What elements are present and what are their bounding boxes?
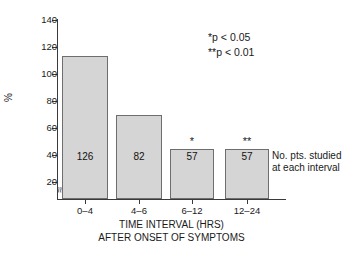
significance-marker-6-12: * (170, 136, 214, 147)
x-tick-label-4-6: 4–6 (114, 205, 164, 216)
x-tick-0-4 (85, 200, 86, 204)
bar-value-6-12: 57 (170, 152, 214, 162)
pvalue-line-001: **p < 0.01 (208, 45, 254, 60)
y-tick-label-20: 20 (29, 177, 57, 187)
pvalue-text-005: p < 0.05 (212, 31, 250, 43)
pvalue-line-005: *p < 0.05 (208, 30, 254, 45)
bar-value-0-4: 126 (62, 152, 108, 162)
y-tick-120: 120 (0, 47, 57, 48)
bar-value-12-24: 57 (225, 152, 269, 162)
num-patients-line2: at each interval (272, 162, 341, 174)
bar-0-4[interactable] (62, 56, 108, 199)
bar-chart-figure: 140 120 100 80 60 40 20 ≈ % 126 82 57 * … (0, 0, 351, 257)
y-tick-label-80: 80 (29, 96, 57, 106)
y-tick-label-60: 60 (29, 123, 57, 133)
y-tick-label-140: 140 (29, 15, 57, 25)
num-patients-annotation: No. pts. studied at each interval (272, 150, 341, 174)
significance-marker-12-24: ** (225, 136, 269, 147)
x-axis-line (57, 199, 286, 200)
x-tick-label-6-12: 6–12 (167, 205, 217, 216)
y-axis-line (57, 19, 58, 200)
y-tick-100: 100 (0, 74, 57, 75)
x-tick-12-24 (247, 200, 248, 204)
x-axis-title: TIME INTERVAL (HRS) AFTER ONSET OF SYMPT… (57, 219, 286, 244)
y-tick-40: 40 (0, 155, 57, 156)
x-axis-title-line1: TIME INTERVAL (HRS) (57, 219, 286, 232)
y-tick-label-40: 40 (29, 150, 57, 160)
x-tick-4-6 (139, 200, 140, 204)
y-tick-20: 20 (0, 182, 57, 183)
x-axis-title-line2: AFTER ONSET OF SYMPTOMS (57, 232, 286, 245)
pvalue-annotation: *p < 0.05 **p < 0.01 (208, 30, 254, 60)
pvalue-text-001: p < 0.01 (216, 46, 254, 58)
asterisk-double-icon: ** (208, 46, 216, 58)
y-tick-140: 140 (0, 20, 57, 21)
y-tick-60: 60 (0, 128, 57, 129)
x-tick-label-12-24: 12–24 (222, 205, 272, 216)
y-tick-label-120: 120 (29, 42, 57, 52)
x-tick-label-0-4: 0–4 (60, 205, 110, 216)
x-tick-6-12 (192, 200, 193, 204)
num-patients-line1: No. pts. studied (272, 150, 341, 162)
y-tick-label-100: 100 (29, 69, 57, 79)
bar-value-4-6: 82 (116, 152, 162, 162)
y-axis-title: % (4, 93, 14, 102)
